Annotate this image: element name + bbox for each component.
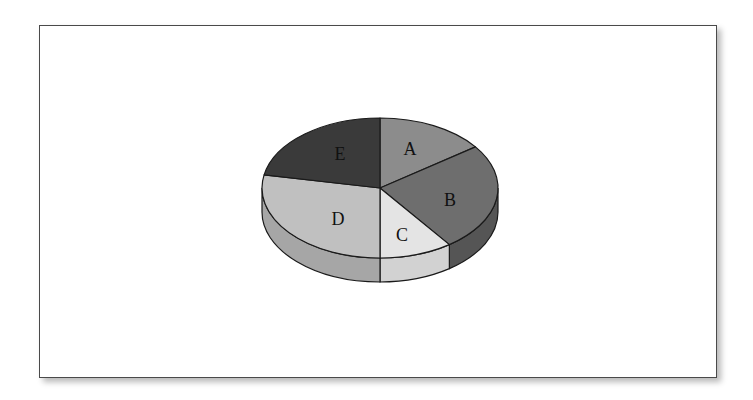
slice-label-c: C bbox=[396, 225, 408, 245]
slice-label-d: D bbox=[332, 209, 345, 229]
pie-chart: A B C D E bbox=[0, 0, 753, 400]
slice-label-a: A bbox=[404, 139, 417, 159]
pie-slices bbox=[262, 118, 498, 258]
slice-label-e: E bbox=[335, 144, 346, 164]
slice-label-b: B bbox=[444, 190, 456, 210]
